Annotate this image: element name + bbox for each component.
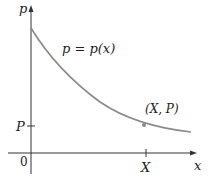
y-axis-arrow-icon xyxy=(29,5,34,12)
point-label: (X, P) xyxy=(145,102,179,116)
y-axis-label: p xyxy=(19,1,28,16)
point-marker xyxy=(142,123,146,127)
demand-curve-chart: p x 0 P X p = p(x) (X, P) xyxy=(0,0,208,186)
origin-label: 0 xyxy=(20,155,28,169)
x-axis-arrow-icon xyxy=(190,151,197,156)
curve-label: p = p(x) xyxy=(62,41,115,56)
x-tick-label: X xyxy=(140,160,151,175)
y-tick-label: P xyxy=(15,119,25,134)
x-axis-label: x xyxy=(194,158,202,173)
